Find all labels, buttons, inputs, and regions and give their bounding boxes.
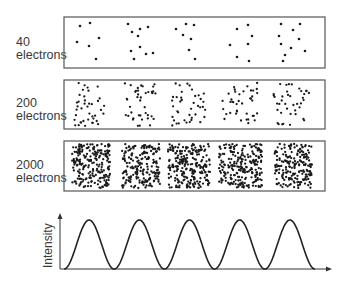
x-axis-arrow-icon — [326, 267, 332, 272]
electron-panels — [64, 17, 325, 191]
y-axis-arrow-icon — [58, 213, 63, 219]
interference-figure: Intensity — [0, 0, 343, 286]
intensity-curve — [64, 220, 315, 269]
y-axis-label: Intensity — [41, 223, 55, 268]
intensity-plot: Intensity — [41, 213, 332, 272]
